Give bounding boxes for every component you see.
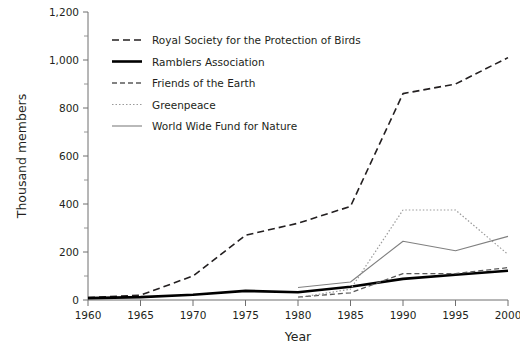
series-line-0 — [88, 58, 508, 298]
x-axis-tick-label: 2000 — [495, 309, 520, 321]
x-axis-tick-label: 1970 — [180, 309, 207, 321]
x-axis-tick-label: 1965 — [127, 309, 154, 321]
legend-label-1: Ramblers Association — [152, 56, 265, 68]
y-axis-tick-label: 1,000 — [49, 54, 79, 66]
x-axis-tick-label: 1990 — [390, 309, 417, 321]
legend-label-2: Friends of the Earth — [152, 77, 255, 89]
x-axis-tick-label: 1960 — [75, 309, 102, 321]
y-axis-tick-label: 0 — [72, 294, 79, 306]
legend-label-3: Greenpeace — [152, 99, 216, 111]
y-axis-tick-label: 200 — [59, 246, 79, 258]
legend-label-0: Royal Society for the Protection of Bird… — [152, 34, 361, 46]
x-axis-tick-label: 1995 — [442, 309, 469, 321]
series-line-1 — [88, 271, 508, 298]
x-axis-tick-label: 1975 — [232, 309, 259, 321]
y-axis-tick-label: 800 — [59, 102, 79, 114]
chart-canvas: 02004006008001,0001,20019601965197019751… — [0, 0, 520, 351]
line-chart: 02004006008001,0001,20019601965197019751… — [0, 0, 520, 351]
y-axis-tick-label: 400 — [59, 198, 79, 210]
x-axis-tick-label: 1980 — [285, 309, 312, 321]
x-axis-title: Year — [284, 329, 312, 344]
y-axis-title: Thousand members — [14, 94, 29, 219]
x-axis-tick-label: 1985 — [337, 309, 364, 321]
y-axis-tick-label: 600 — [59, 150, 79, 162]
y-axis-tick-label: 1,200 — [49, 6, 79, 18]
legend-label-4: World Wide Fund for Nature — [152, 120, 297, 132]
